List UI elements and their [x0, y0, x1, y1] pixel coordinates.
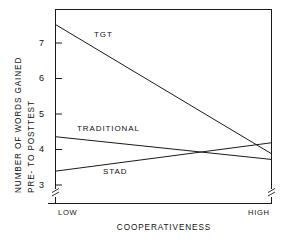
- axis-break-left-icon: [52, 189, 59, 197]
- series-line-stad: [56, 143, 272, 171]
- axes-frame: [48, 9, 272, 204]
- chart-figure: NUMBER OF WORDS GAINED PRE- TO POSTTEST …: [0, 0, 305, 243]
- series-line-traditional: [56, 137, 272, 160]
- series-lines: [56, 25, 272, 172]
- x-tick-marks: [56, 197, 272, 203]
- series-line-tgt: [56, 25, 272, 154]
- y-tick-marks: [55, 43, 62, 185]
- axis-break-right-icon: [268, 189, 275, 197]
- plot-area: [0, 0, 305, 243]
